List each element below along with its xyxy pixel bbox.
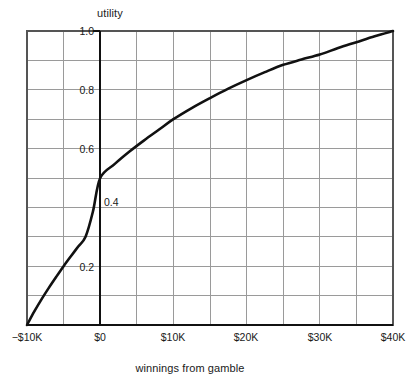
plot-area — [0, 0, 420, 387]
x-tick-label-20k: $20K — [216, 331, 276, 343]
utility-function-chart: utility winnings from gamble −$10K $0 $1… — [0, 0, 420, 387]
y-tick-label-0-2: 0.2 — [60, 261, 94, 273]
x-tick-label-0: $0 — [70, 331, 130, 343]
x-tick-label-30k: $30K — [290, 331, 350, 343]
x-tick-label-40k: $40K — [363, 331, 420, 343]
x-tick-label-neg10k: −$10K — [0, 331, 57, 343]
y-tick-label-1-0: 1.0 — [60, 25, 94, 37]
y-tick-label-0-6: 0.6 — [60, 143, 94, 155]
y-tick-label-0-8: 0.8 — [60, 84, 94, 96]
x-axis-title: winnings from gamble — [110, 362, 270, 374]
y-axis-title: utility — [86, 7, 134, 19]
x-tick-label-10k: $10K — [143, 331, 203, 343]
y-tick-label-0-4: 0.4 — [104, 196, 138, 208]
